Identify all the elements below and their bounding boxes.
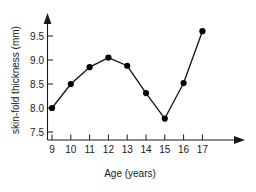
x-tick-label: 10	[65, 144, 77, 155]
y-axis-arrow-icon	[44, 13, 52, 24]
line-chart-plot: 9.5 9.0 8.5 8.0 7.5 9 10 11 12 13 14 15	[0, 0, 256, 192]
x-axis-arrow-icon	[234, 136, 245, 144]
data-point	[105, 55, 111, 61]
y-axis-title: skin-fold thickness (mm)	[10, 26, 21, 134]
data-point	[49, 105, 55, 111]
data-point	[68, 81, 74, 87]
x-tick-label: 14	[140, 144, 152, 155]
data-point	[199, 28, 205, 34]
x-axis-ticks	[52, 135, 202, 141]
x-tick-label: 13	[122, 144, 134, 155]
x-tick-label: 11	[84, 144, 95, 155]
data-point	[124, 63, 130, 69]
chart-figure: 9.5 9.0 8.5 8.0 7.5 9 10 11 12 13 14 15	[0, 0, 256, 192]
y-tick-label: 8.0	[30, 103, 44, 114]
x-tick-label: 12	[103, 144, 115, 155]
x-axis-tick-labels: 9 10 11 12 13 14 15 16 17	[49, 144, 208, 155]
y-axis-tick-labels: 9.5 9.0 8.5 8.0 7.5	[30, 31, 44, 138]
y-tick-label: 7.5	[30, 127, 44, 138]
data-series-points	[49, 28, 206, 122]
data-point	[181, 80, 187, 86]
data-series-line	[52, 31, 202, 118]
data-point	[143, 90, 149, 96]
data-point	[87, 64, 93, 70]
y-tick-label: 8.5	[30, 79, 44, 90]
x-tick-label: 9	[49, 144, 55, 155]
data-point	[162, 115, 168, 121]
x-tick-label: 16	[178, 144, 190, 155]
x-axis-title: Age (years)	[104, 168, 156, 179]
x-tick-label: 17	[197, 144, 209, 155]
y-tick-label: 9.5	[30, 31, 44, 42]
y-axis-ticks	[48, 36, 54, 132]
y-tick-label: 9.0	[30, 55, 44, 66]
x-tick-label: 15	[159, 144, 171, 155]
